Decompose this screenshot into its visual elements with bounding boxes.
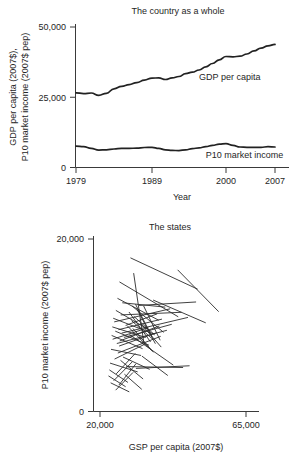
- x-ticks-top: 1979198920002007: [66, 168, 285, 187]
- x-axis-label-top: Year: [173, 192, 191, 202]
- y-tick-label: 0: [79, 407, 84, 417]
- panel-the-states: The states P10 market income (2007$ pep)…: [40, 222, 260, 452]
- x-tick-label: 1979: [66, 176, 86, 186]
- state-line-segment: [120, 282, 178, 317]
- series-annotation-gdp: GDP per capita: [199, 72, 260, 82]
- x-ticks-bottom: 20,00065,000: [86, 412, 260, 431]
- state-line-segment: [130, 335, 173, 365]
- y-tick-label: 25,000: [38, 93, 66, 103]
- y-axis-label-bottom: P10 market income (2007$ pep): [40, 261, 50, 390]
- figure-container: The country as a whole GDP per capita (2…: [0, 0, 299, 463]
- series-group-top: [76, 44, 275, 150]
- y-tick-label: 0: [61, 163, 66, 173]
- state-line-segment: [139, 302, 195, 305]
- panel-country-as-a-whole: The country as a whole GDP per capita (2…: [8, 6, 289, 202]
- state-line-segment: [142, 356, 167, 375]
- x-tick-label: 2000: [216, 176, 236, 186]
- figure-svg: The country as a whole GDP per capita (2…: [0, 0, 299, 463]
- panel-title-states: The states: [149, 222, 192, 232]
- state-line-segment: [131, 258, 198, 289]
- state-segments-group: [109, 258, 219, 392]
- x-axis-label-bottom: GSP per capita (2007$): [129, 442, 223, 452]
- x-tick-label: 20,000: [86, 420, 114, 430]
- x-tick-label: 2007: [265, 176, 285, 186]
- y-tick-label: 50,000: [38, 22, 66, 32]
- y-ticks-top: 025,00050,000: [38, 22, 75, 173]
- x-tick-label: 1989: [142, 176, 162, 186]
- x-tick-label: 65,000: [232, 420, 260, 430]
- state-line-segment: [115, 344, 145, 359]
- y-axis-label-line2: P10 market income (2007$ pep): [20, 33, 30, 162]
- state-line-segment: [178, 270, 219, 311]
- series-line-gdp: [76, 44, 275, 95]
- panel-title-country: The country as a whole: [131, 6, 224, 16]
- y-axis-label-line1: GDP per capita (2007$),: [8, 48, 18, 145]
- y-ticks-bottom: 020,000: [56, 234, 93, 417]
- series-annotation-p10: P10 market income: [206, 150, 284, 160]
- y-tick-label: 20,000: [56, 234, 84, 244]
